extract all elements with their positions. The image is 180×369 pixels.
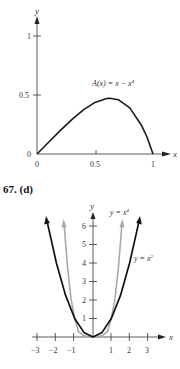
curve-x4-label: y = x4 [109,208,130,217]
x-tick-label-neg2: −2 [49,346,58,355]
y-axis-arrow-icon [35,16,40,24]
x-tick-label-neg3: −3 [31,346,40,355]
curve-x2-arrow-right-icon [136,216,142,225]
x-tick-label-3: 3 [145,346,149,355]
area-curve [37,98,153,154]
x-tick-label-2: 2 [127,346,131,355]
y-axis-arrow-icon [91,212,96,219]
x-axis-label: x [168,332,173,342]
x-axis-arrow-icon [158,335,166,340]
x-tick-label-neg1: −1 [67,346,76,355]
x-tick-label-1: 1 [109,346,113,355]
y-tick-label-1: 1 [27,32,31,41]
x-axis-arrow-icon [162,152,171,157]
y-tick-label-4: 4 [82,259,86,268]
y-tick-label-05: 0.5 [19,91,29,100]
problem-heading: 67. (d) [3,183,33,195]
area-curve-label: A(x) = x − x4 [91,79,135,88]
y-tick-label-0: 0 [27,150,31,159]
x-axis-label: x [172,149,177,159]
area-function-chart: y x 1 0.5 0 0 0.5 1 A(x) = x − x4 [0,0,180,180]
x-tick-label-0: 0 [35,160,39,169]
curve-x2-arrow-left-icon [44,216,50,225]
y-axis-label: y [89,201,94,211]
curve-x4-arrow-right-icon [119,219,124,228]
x-tick-label-05: 0.5 [90,160,100,169]
curve-x4-arrow-left-icon [61,219,66,228]
y-tick-label-1: 1 [82,314,86,323]
curve-x2 [47,222,139,337]
x-tick-label-1: 1 [151,160,155,169]
curve-x2-label: y = x2 [133,254,154,263]
y-tick-label-6: 6 [82,222,86,231]
y-tick-label-2: 2 [82,296,86,305]
y-axis-label: y [34,6,39,16]
y-tick-label-3: 3 [82,277,86,286]
y-tick-label-5: 5 [82,240,86,249]
curve-x4 [64,227,121,338]
